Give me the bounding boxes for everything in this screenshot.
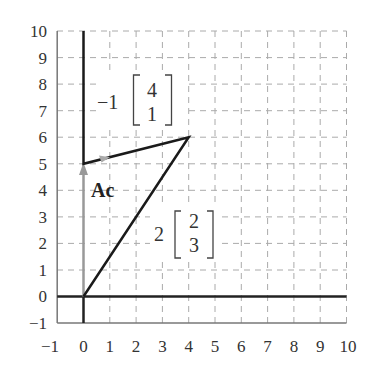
svg-text:0: 0 [79, 337, 88, 356]
svg-text:2: 2 [39, 234, 48, 253]
svg-text:10: 10 [30, 22, 47, 41]
svg-text:7: 7 [263, 337, 272, 356]
svg-text:6: 6 [39, 128, 48, 147]
svg-text:2: 2 [189, 210, 199, 232]
svg-text:3: 3 [189, 234, 199, 256]
svg-text:4: 4 [39, 181, 48, 200]
svg-text:1: 1 [39, 261, 48, 280]
svg-text:8: 8 [290, 337, 299, 356]
svg-text:0: 0 [39, 287, 48, 306]
y-tick-labels: 10 9 8 7 6 5 4 3 2 1 0 −1 [29, 22, 48, 333]
svg-text:5: 5 [39, 155, 48, 174]
svg-text:1: 1 [147, 103, 157, 125]
svg-text:−1: −1 [97, 91, 118, 113]
svg-text:10: 10 [340, 337, 357, 356]
vector-combination-diagram: 10 9 8 7 6 5 4 3 2 1 0 −1 −1 0 1 2 3 4 5… [0, 0, 381, 387]
term1-label: −1 4 1 [96, 70, 188, 130]
svg-text:4: 4 [147, 79, 157, 101]
ac-arrow [79, 163, 88, 297]
x-tick-labels: −1 0 1 2 3 4 5 6 7 8 9 10 [41, 337, 357, 356]
svg-text:7: 7 [39, 102, 48, 121]
ac-label: Ac [91, 179, 114, 201]
term2-label: 2 2 3 [150, 205, 220, 258]
svg-text:2: 2 [132, 337, 141, 356]
svg-text:1: 1 [106, 337, 115, 356]
svg-text:6: 6 [237, 337, 246, 356]
svg-text:9: 9 [316, 337, 325, 356]
svg-text:−1: −1 [41, 337, 59, 356]
svg-text:−1: −1 [29, 314, 47, 333]
svg-text:5: 5 [211, 337, 220, 356]
svg-text:4: 4 [184, 337, 193, 356]
svg-text:9: 9 [39, 49, 48, 68]
svg-text:8: 8 [39, 75, 48, 94]
svg-text:2: 2 [154, 223, 164, 245]
svg-text:3: 3 [39, 208, 48, 227]
svg-text:3: 3 [158, 337, 167, 356]
